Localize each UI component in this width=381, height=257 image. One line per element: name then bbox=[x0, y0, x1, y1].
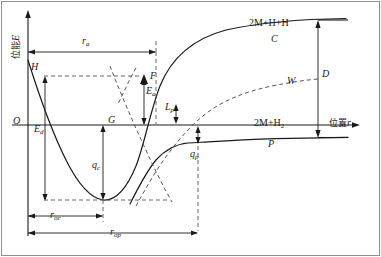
x-axis-label: 位置r bbox=[329, 118, 351, 128]
x-axis-label-symbol: r bbox=[347, 117, 351, 128]
dissociation-level-label: 2M+H+H bbox=[249, 18, 289, 28]
label-D-base: D bbox=[322, 68, 329, 79]
label-ra: ra bbox=[82, 36, 89, 48]
label-Ed: Ed bbox=[34, 124, 44, 136]
label-H: H bbox=[31, 62, 38, 72]
label-F: F bbox=[150, 71, 156, 81]
label-roc-sub: oc bbox=[54, 214, 61, 222]
label-Ea: Ea bbox=[146, 86, 156, 98]
label-qp-sub: p bbox=[195, 153, 199, 161]
label-qc: qc bbox=[92, 160, 100, 172]
label-W: W bbox=[287, 76, 295, 86]
label-C: C bbox=[271, 34, 278, 44]
label-Ed-sub: d bbox=[40, 128, 44, 136]
x-axis-label-cjk: 位置 bbox=[329, 118, 347, 128]
label-P: P bbox=[268, 139, 274, 149]
label-Lp-sub: p bbox=[171, 106, 175, 114]
y-axis-label-cjk: 位能 bbox=[11, 41, 21, 59]
molecular-level-base: 2M+H bbox=[254, 117, 281, 128]
potential-energy-diagram: 位能E 位置r O H G F C P W 2M+H+H 2M+H2 Ea Ed… bbox=[0, 0, 381, 257]
label-qp: qp bbox=[190, 149, 199, 161]
label-roc: roc bbox=[50, 210, 61, 222]
molecular-level-subscript: 2 bbox=[281, 122, 285, 130]
origin-label: O bbox=[13, 116, 20, 126]
label-rop-sub: op bbox=[114, 231, 121, 239]
label-G: G bbox=[108, 115, 115, 125]
label-qc-sub: c bbox=[97, 164, 100, 172]
label-rop: rop bbox=[110, 227, 121, 239]
molecular-level-label: 2M+H2 bbox=[254, 118, 284, 130]
label-Lp: Lp bbox=[165, 102, 174, 114]
y-axis-label: 位能E bbox=[5, 20, 23, 74]
y-axis-label-symbol: E bbox=[10, 35, 21, 41]
label-Ea-sub: a bbox=[152, 90, 156, 98]
label-ra-sub: a bbox=[86, 40, 90, 48]
label-D: D bbox=[322, 69, 329, 79]
